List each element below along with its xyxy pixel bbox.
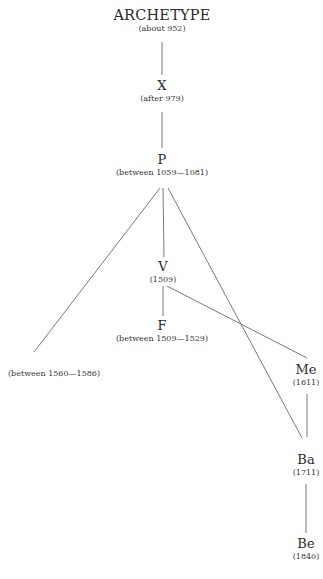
node-f: F (between 1509—1529) [116,318,208,344]
siglum: X [140,78,184,93]
date: (1840) [293,551,320,562]
date: (about 952) [113,23,210,34]
date: (between 1560—1586) [8,368,100,379]
date: (after 979) [140,93,184,104]
node-m: M (between 1560—1586) [8,353,100,379]
siglum: Ba [293,452,320,467]
date: (1711) [293,467,320,478]
siglum: ARCHETYPE [113,8,210,23]
siglum: Me [293,362,320,377]
siglum: V [150,259,177,274]
node-p: P (between 1059—1081) [116,152,208,178]
siglum: P [116,152,208,167]
node-x: X (after 979) [140,78,184,104]
date: (1509) [150,274,177,285]
siglum: Be [293,536,320,551]
node-me: Me (1611) [293,362,320,388]
edge-p-v [163,188,164,257]
node-be: Be (1840) [293,536,320,562]
siglum: M [0,353,100,368]
date: (between 1059—1081) [116,167,208,178]
date: (between 1509—1529) [116,333,208,344]
node-v: V (1509) [150,259,177,285]
edge-p-ba [168,188,302,438]
siglum: F [116,318,208,333]
node-ba: Ba (1711) [293,452,320,478]
node-archetype: ARCHETYPE (about 952) [113,8,210,34]
date: (1611) [293,377,320,388]
